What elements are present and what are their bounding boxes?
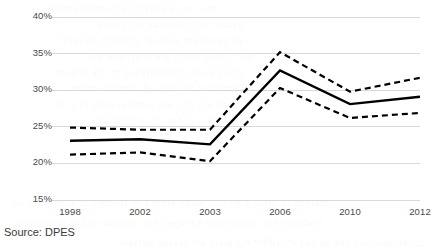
source-note: Source: DPES (4, 226, 75, 239)
y-tick-label: 20% (6, 157, 52, 167)
y-tick-label: 35% (6, 48, 52, 58)
y-tick-label: 25% (6, 121, 52, 131)
plot-area (0, 0, 434, 249)
gridlines (52, 17, 420, 200)
series-group (70, 52, 420, 161)
y-tick-label: 40% (6, 11, 52, 21)
series-line-1 (70, 70, 420, 144)
series-line-2 (70, 88, 420, 161)
y-axis: 40%35%30%25%20%15% (0, 0, 52, 249)
y-tick-label: 30% (6, 84, 52, 94)
y-tick-label: 15% (6, 194, 52, 204)
chart-container: allenfeldstetten en trends eutral han es… (0, 0, 434, 249)
series-line-0 (70, 52, 420, 130)
